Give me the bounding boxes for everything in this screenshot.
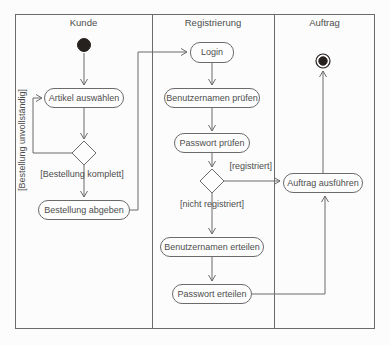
activity-artikel-auswaehlen: Artikel auswählen (44, 88, 124, 108)
guard-bestellung-unvollstaendig: [Bestellung unvollständig] (17, 85, 29, 195)
guard-registriert: [registriert] (196, 161, 272, 172)
edge-bestellung-abgeben-to-login (130, 52, 187, 210)
decision-diamond-bestellung (72, 141, 96, 165)
guard-bestellung-komplett: [Bestellung komplett] (36, 169, 128, 180)
decision-diamond-registriert (200, 169, 224, 193)
activity-passwort-pruefen: Passwort prüfen (174, 133, 250, 153)
activity-passwort-erteilen: Passwort erteilen (172, 284, 252, 304)
activity-login: Login (190, 42, 234, 63)
guard-nicht-registriert: [nicht registriert] (162, 199, 262, 210)
activity-bestellung-abgeben: Bestellung abgeben (38, 200, 130, 220)
activity-auftrag-ausfuehren: Auftrag ausführen (283, 173, 363, 193)
activity-benutzernamen-pruefen: Benutzernamen prüfen (164, 88, 260, 108)
final-node-icon (319, 57, 327, 65)
initial-node-icon (78, 39, 91, 52)
activity-diagram: Kunde Registrierung Auftrag Artikel aus (0, 0, 390, 345)
activity-benutzernamen-erteilen: Benutzernamen erteilen (160, 237, 264, 257)
